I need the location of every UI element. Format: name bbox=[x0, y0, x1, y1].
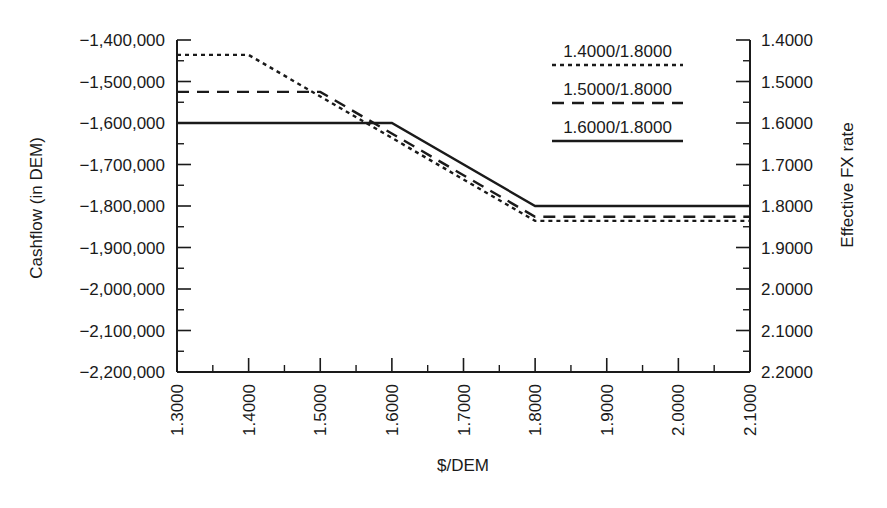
series-line-dashed bbox=[177, 92, 750, 217]
x-tick-label: 1.8000 bbox=[526, 384, 545, 436]
legend-label: 1.4000/1.8000 bbox=[563, 42, 672, 61]
y-tick-label: −1,900,000 bbox=[79, 239, 165, 258]
x-axis-title: $/DEM bbox=[437, 456, 489, 475]
x-tick-label: 1.9000 bbox=[598, 384, 617, 436]
y2-axis-title: Effective FX rate bbox=[838, 122, 857, 247]
y-tick-label: −1,700,000 bbox=[79, 156, 165, 175]
y2-tick-label: 1.4000 bbox=[761, 31, 813, 50]
x-tick-label: 1.7000 bbox=[455, 384, 474, 436]
y-tick-label: −1,600,000 bbox=[79, 114, 165, 133]
x-axis: 1.30001.40001.50001.60001.70001.80001.90… bbox=[168, 358, 760, 436]
y2-tick-label: 2.2000 bbox=[761, 363, 813, 382]
x-tick-label: 1.5000 bbox=[311, 384, 330, 436]
y-tick-label: −1,800,000 bbox=[79, 197, 165, 216]
y2-tick-label: 2.0000 bbox=[761, 280, 813, 299]
y2-tick-label: 2.1000 bbox=[761, 322, 813, 341]
y2-tick-label: 1.6000 bbox=[761, 114, 813, 133]
chart: −1,400,000−1,500,000−1,600,000−1,700,000… bbox=[0, 0, 887, 508]
y2-tick-label: 1.7000 bbox=[761, 156, 813, 175]
y-tick-label: −1,500,000 bbox=[79, 73, 165, 92]
legend-label: 1.5000/1.8000 bbox=[563, 80, 672, 99]
x-tick-label: 1.3000 bbox=[168, 384, 187, 436]
y-axis-left: −1,400,000−1,500,000−1,600,000−1,700,000… bbox=[79, 31, 191, 382]
y-tick-label: −1,400,000 bbox=[79, 31, 165, 50]
x-tick-label: 2.0000 bbox=[669, 384, 688, 436]
y2-tick-label: 1.8000 bbox=[761, 197, 813, 216]
y-tick-label: −2,000,000 bbox=[79, 280, 165, 299]
y2-tick-label: 1.9000 bbox=[761, 239, 813, 258]
x-tick-label: 1.4000 bbox=[240, 384, 259, 436]
y-tick-label: −2,100,000 bbox=[79, 322, 165, 341]
y-tick-label: −2,200,000 bbox=[79, 363, 165, 382]
x-tick-label: 1.6000 bbox=[383, 384, 402, 436]
x-tick-label: 2.1000 bbox=[741, 384, 760, 436]
y2-tick-label: 1.5000 bbox=[761, 73, 813, 92]
y-axis-title: Cashflow (in DEM) bbox=[27, 137, 46, 279]
legend: 1.4000/1.80001.5000/1.80001.6000/1.8000 bbox=[552, 42, 683, 141]
legend-label: 1.6000/1.8000 bbox=[563, 118, 672, 137]
